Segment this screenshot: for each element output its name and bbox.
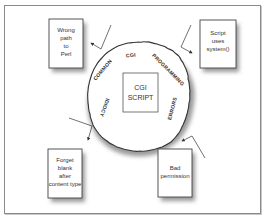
arrow-to-script-system: [181, 25, 192, 53]
box-line: to: [63, 43, 69, 49]
box-line: Forget: [56, 157, 74, 163]
box-line: Perl: [61, 51, 72, 57]
box-line: permission: [160, 173, 189, 179]
box-line: Wrong: [57, 27, 75, 33]
box-line: after: [59, 173, 71, 179]
box-wrong-path-to-perl: Wrong path to Perl: [49, 19, 83, 68]
box-line: uses: [212, 38, 225, 44]
box-forget-blank-after-content-type: Forget blank after content type: [48, 149, 82, 198]
box-line: Bad: [170, 165, 181, 171]
ring-word-cgi: CGI: [126, 52, 137, 59]
box-line: blank: [58, 165, 73, 171]
box-line: content type: [49, 181, 82, 187]
box-bad-permission: Bad permission: [158, 149, 192, 197]
box-line: path: [60, 35, 72, 41]
cgi-script-box: [123, 73, 158, 112]
cgi-script-label-line2: SCRIPT: [128, 94, 154, 101]
arrow-to-wrong-path: [91, 25, 111, 49]
cgi-errors-diagram: CGI SCRIPT COMMON CGI PROGRAMMING ERRORS…: [0, 0, 266, 220]
cgi-script-label-line1: CGI: [134, 84, 147, 91]
box-script-uses-system: Script uses system(): [200, 20, 236, 68]
box-line: Script: [210, 30, 226, 36]
box-line: system(): [207, 46, 230, 52]
arrow-to-forget-blank: [69, 118, 92, 140]
